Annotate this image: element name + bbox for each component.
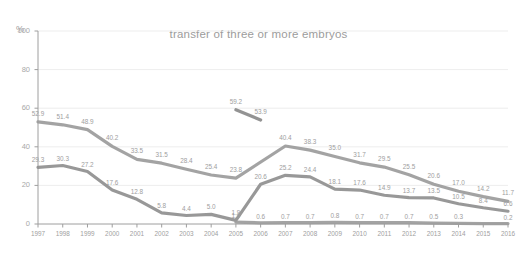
- data-point-label: 0.2: [495, 214, 517, 221]
- y-tick-label: 40: [8, 142, 30, 151]
- data-point-label: 25.2: [272, 164, 298, 171]
- x-tick-label: 2008: [297, 230, 323, 237]
- y-tick-label: 0: [8, 219, 30, 228]
- x-tick-label: 2005: [223, 230, 249, 237]
- data-point-label: 17.0: [446, 179, 472, 186]
- x-tick-label: 2009: [322, 230, 348, 237]
- data-point-label: 0.7: [297, 213, 323, 220]
- data-point-label: 31.7: [347, 151, 373, 158]
- data-point-label: 20.6: [248, 173, 274, 180]
- x-tick-label: 1997: [25, 230, 51, 237]
- y-tick-label: 80: [8, 65, 30, 74]
- data-point-label: 0.7: [347, 213, 373, 220]
- x-tick-label: 2004: [198, 230, 224, 237]
- x-tick-label: 1998: [50, 230, 76, 237]
- data-point-label: 5.0: [198, 203, 224, 210]
- data-point-label: 52.9: [25, 110, 51, 117]
- data-point-label: 0.5: [421, 213, 447, 220]
- data-point-label: 6.6: [495, 200, 517, 207]
- x-tick-label: 2001: [124, 230, 150, 237]
- data-point-label: 0.6: [248, 213, 274, 220]
- data-point-label: 0.7: [396, 213, 422, 220]
- x-tick-label: 2000: [99, 230, 125, 237]
- plot-area: [0, 0, 517, 268]
- x-tick-label: 1999: [74, 230, 100, 237]
- data-point-label: 4.4: [173, 205, 199, 212]
- data-point-label: 0.7: [272, 213, 298, 220]
- data-point-label: 17.6: [347, 179, 373, 186]
- x-tick-label: 2014: [446, 230, 472, 237]
- data-point-label: 38.3: [297, 138, 323, 145]
- x-tick-label: 2011: [371, 230, 397, 237]
- x-tick-label: 2013: [421, 230, 447, 237]
- data-point-label: 11.7: [495, 189, 517, 196]
- data-point-label: 29.5: [371, 155, 397, 162]
- data-point-label: 53.9: [248, 108, 274, 115]
- data-point-label: 51.4: [50, 113, 76, 120]
- data-point-label: 0.3: [446, 213, 472, 220]
- data-point-label: 13.7: [396, 187, 422, 194]
- data-point-label: 31.5: [149, 151, 175, 158]
- data-point-label: 14.9: [371, 184, 397, 191]
- data-point-label: 28.4: [173, 157, 199, 164]
- data-point-label: 20.6: [421, 172, 447, 179]
- data-point-label: 5.8: [149, 202, 175, 209]
- data-point-label: 0.8: [322, 212, 348, 219]
- data-point-label: 48.9: [74, 118, 100, 125]
- data-point-label: 40.2: [99, 134, 125, 141]
- data-point-label: 25.5: [396, 163, 422, 170]
- data-point-label: 17.6: [99, 179, 125, 186]
- y-tick-label: 100: [8, 26, 30, 35]
- data-point-label: 30.3: [50, 155, 76, 162]
- data-point-label: 29.3: [25, 156, 51, 163]
- data-point-label: 40.4: [272, 134, 298, 141]
- x-tick-label: 2007: [272, 230, 298, 237]
- data-point-label: 14.2: [470, 185, 496, 192]
- x-tick-label: 2010: [347, 230, 373, 237]
- x-tick-label: 2016: [495, 230, 517, 237]
- x-tick-label: 2015: [470, 230, 496, 237]
- data-point-label: 13.5: [421, 187, 447, 194]
- x-tick-label: 2012: [396, 230, 422, 237]
- data-point-label: 27.2: [74, 161, 100, 168]
- data-point-label: 33.5: [124, 147, 150, 154]
- x-tick-label: 2002: [149, 230, 175, 237]
- x-tick-label: 2006: [248, 230, 274, 237]
- data-point-label: 1.0: [223, 212, 249, 219]
- data-point-label: 18.1: [322, 178, 348, 185]
- data-point-label: 25.4: [198, 163, 224, 170]
- data-point-label: 59.2: [223, 98, 249, 105]
- x-tick-label: 2003: [173, 230, 199, 237]
- data-point-label: 23.8: [223, 166, 249, 173]
- data-point-label: 8.4: [470, 197, 496, 204]
- data-point-label: 12.8: [124, 188, 150, 195]
- data-point-label: 24.4: [297, 166, 323, 173]
- data-point-label: 0.7: [371, 213, 397, 220]
- y-tick-label: 20: [8, 180, 30, 189]
- data-point-label: 10.5: [446, 193, 472, 200]
- data-point-label: 35.0: [322, 144, 348, 151]
- axis-lines: [38, 31, 508, 224]
- chart-container: % transfer of three or more embryos 0204…: [0, 0, 517, 268]
